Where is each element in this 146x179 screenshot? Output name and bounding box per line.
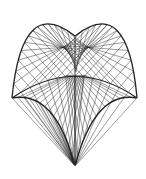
mesh-line [14,84,21,92]
mesh-line [75,84,110,167]
mesh-line [128,84,135,92]
diagram-canvas: Cross-vaulted shell surface wireframe [0,0,146,179]
mesh-line [65,75,81,137]
boundary-edges [12,24,137,166]
base-right-edge [75,98,137,166]
mesh-line [35,100,75,166]
base-left-edge [12,98,75,166]
mesh-line [45,107,75,166]
mesh-line [49,111,75,166]
mesh-line [18,60,39,83]
mesh-line [75,92,128,166]
mesh-line [119,71,133,87]
mesh-line [29,36,66,77]
mesh-line [40,103,75,166]
mesh-line [102,51,129,81]
mesh-line [72,75,89,129]
left-arch-edge [12,24,75,98]
vault-wireframe [0,0,146,179]
mesh-line [76,44,131,61]
mesh-line [21,51,48,81]
mesh-line [110,60,131,83]
mesh-line [33,31,75,77]
mesh-line [16,71,30,87]
